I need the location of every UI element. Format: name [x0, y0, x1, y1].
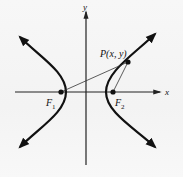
focus-f2-dot: [110, 89, 115, 94]
point-p-label: P(x, y): [99, 48, 127, 60]
diagram-svg: y x P(x, y) F1 F2: [0, 0, 183, 177]
focus-f2-label: F2: [114, 97, 125, 111]
focus-f1-dot: [58, 89, 63, 94]
focus-f2-sub: 2: [121, 103, 125, 111]
focus-f1-sub: 1: [52, 103, 56, 111]
y-axis-label: y: [82, 2, 87, 12]
x-axis-label: x: [164, 87, 169, 97]
hyperbola-diagram: y x P(x, y) F1 F2: [0, 0, 183, 177]
point-p-dot: [125, 59, 130, 64]
focus-f1-label: F1: [45, 97, 56, 111]
segment-f1-to-p: [61, 62, 128, 92]
